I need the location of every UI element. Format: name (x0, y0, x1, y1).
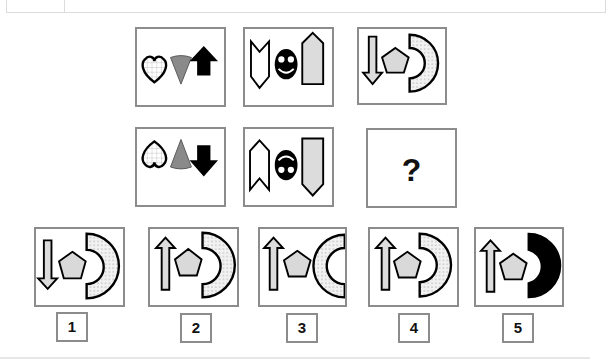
dotted-half-ring-icon (420, 234, 451, 297)
cone-down-icon (171, 56, 192, 85)
face-inverted-icon (275, 150, 298, 180)
arrow-down-icon (190, 145, 219, 176)
puzzle-cell-r2c3-question: ? (366, 128, 457, 208)
option-3[interactable] (258, 227, 347, 307)
pentagon-icon (175, 249, 202, 276)
pentagon-icon (382, 48, 409, 73)
dotted-half-ring-icon (87, 234, 119, 299)
pentagon-icon (394, 252, 421, 278)
option-1[interactable] (34, 227, 125, 307)
arrow-up-icon (190, 46, 219, 75)
header-table-row (6, 0, 606, 13)
arrow-up-icon (481, 240, 500, 291)
arrow-pentagon-up-icon (302, 33, 323, 84)
pentagon-icon (500, 254, 527, 280)
option-2[interactable] (148, 227, 239, 307)
option-2-label[interactable]: 2 (180, 313, 212, 343)
pentagon-icon (59, 252, 86, 279)
header-divider (64, 0, 65, 13)
option-3-label[interactable]: 3 (286, 313, 318, 343)
option-5[interactable] (474, 227, 564, 307)
chevron-banner-down-icon (251, 41, 269, 88)
black-half-ring-icon (529, 234, 561, 298)
arrow-up-icon (376, 238, 395, 290)
arrow-up-icon (264, 238, 283, 290)
arrow-down-icon (363, 37, 382, 84)
footer-divider (0, 357, 590, 359)
puzzle-cell-r2c2 (243, 127, 334, 207)
puzzle-cell-r1c1 (135, 27, 226, 107)
smiley-face-icon (275, 49, 298, 79)
arrow-pentagon-down-icon (302, 139, 323, 196)
option-5-label[interactable]: 5 (502, 313, 534, 343)
pentagon-icon (284, 251, 311, 277)
option-1-label[interactable]: 1 (56, 312, 88, 342)
dotted-open-ring-icon (313, 235, 344, 298)
option-4[interactable] (368, 227, 459, 307)
heart-inverted-icon (143, 141, 166, 167)
cone-up-icon (171, 139, 192, 168)
arrow-up-icon (156, 238, 175, 290)
puzzle-cell-r2c1 (135, 127, 226, 207)
puzzle-cell-r1c2 (243, 27, 334, 107)
option-4-label[interactable]: 4 (398, 313, 430, 343)
heart-icon (143, 57, 166, 83)
dotted-half-ring-icon (203, 233, 235, 298)
arrow-down-icon (38, 240, 57, 288)
puzzle-cell-r1c3 (357, 27, 447, 105)
question-mark: ? (368, 152, 455, 189)
dotted-half-ring-icon (410, 35, 438, 92)
chevron-banner-up-icon (250, 140, 269, 189)
